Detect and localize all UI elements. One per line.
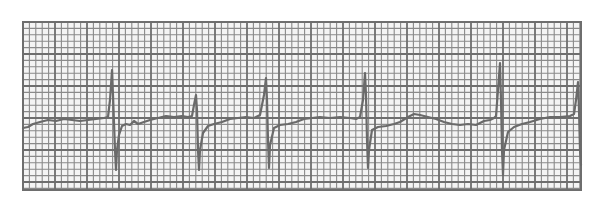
ecg-strip [0,0,594,202]
